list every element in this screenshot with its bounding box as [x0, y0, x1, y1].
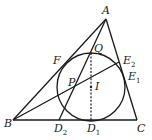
label-i: I — [94, 80, 100, 93]
incenter-dot — [90, 86, 92, 88]
diagram-canvas: A F Q E2 E1 P I B D2 D1 C — [0, 0, 152, 140]
segment-a-d2 — [59, 19, 106, 120]
label-f: F — [52, 54, 61, 67]
label-e2-sub: 2 — [131, 61, 135, 69]
label-e1: E1 — [127, 70, 141, 85]
label-c: C — [137, 122, 146, 135]
label-e1-main: E — [127, 70, 136, 83]
label-d2: D2 — [53, 122, 67, 137]
label-e2-main: E — [122, 54, 131, 67]
label-p: P — [67, 76, 76, 89]
label-e1-sub: 1 — [136, 77, 140, 85]
label-d1-main: D — [86, 122, 96, 135]
label-d2-main: D — [53, 122, 63, 135]
label-d1: D1 — [86, 122, 100, 137]
label-d2-sub: 2 — [63, 129, 67, 137]
label-d1-sub: 1 — [96, 129, 100, 137]
label-a: A — [101, 4, 110, 17]
geometry-diagram: A F Q E2 E1 P I B D2 D1 C — [0, 0, 152, 140]
label-e2: E2 — [122, 54, 136, 69]
side-ab — [13, 19, 106, 120]
label-q: Q — [94, 42, 103, 55]
segment-b-e2 — [13, 62, 119, 120]
label-b: B — [3, 117, 12, 130]
